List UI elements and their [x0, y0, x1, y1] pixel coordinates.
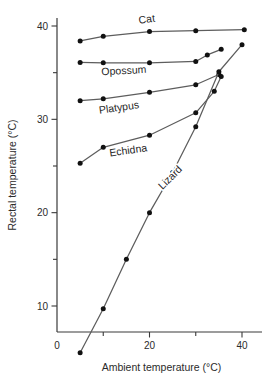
data-point-cat: [101, 34, 106, 39]
data-point-echidna: [78, 161, 83, 166]
data-point-cat: [242, 27, 247, 32]
y-axis-tick-label: 10: [37, 301, 49, 312]
x-axis-tick-label: 20: [144, 340, 156, 351]
data-point-cat: [193, 28, 198, 33]
data-point-echidna: [101, 145, 106, 150]
data-point-opossum: [78, 60, 83, 65]
series-line-echidna: [80, 76, 221, 163]
y-axis-title: Rectal temperature (°C): [6, 120, 18, 231]
data-point-lizard: [124, 257, 129, 262]
chart-figure: 1020304002040 CatCatOpossumOpossumPlatyp…: [0, 0, 269, 381]
series-line-platypus: [80, 75, 219, 101]
data-point-lizard: [216, 69, 221, 74]
data-point-platypus: [101, 96, 106, 101]
data-point-cat: [147, 29, 152, 34]
data-point-opossum: [205, 52, 210, 57]
x-axis-tick-label: 40: [236, 340, 248, 351]
series-labels: CatCatOpossumOpossumPlatypusPlatypusEchi…: [98, 12, 184, 192]
data-point-lizard: [78, 350, 83, 355]
data-point-opossum: [147, 60, 152, 65]
y-axis-tick-label: 30: [37, 114, 49, 125]
data-point-echidna: [193, 110, 198, 115]
data-point-echidna: [212, 89, 217, 94]
data-point-platypus: [78, 98, 83, 103]
data-point-lizard: [147, 210, 152, 215]
data-point-lizard: [240, 42, 245, 47]
axes: 1020304002040: [37, 18, 262, 351]
series-label-lizard: Lizard: [155, 163, 184, 192]
data-point-lizard: [193, 124, 198, 129]
data-point-echidna: [219, 74, 224, 79]
data-point-lizard: [101, 306, 106, 311]
x-axis-title: Ambient temperature (°C): [102, 361, 222, 373]
series-label-cat: Cat: [138, 12, 156, 26]
y-axis-tick-label: 20: [37, 207, 49, 218]
data-point-opossum: [193, 59, 198, 64]
data-point-platypus: [147, 90, 152, 95]
data-point-opossum: [219, 47, 224, 52]
y-axis-tick-label: 40: [37, 21, 49, 32]
temperature-line-chart: 1020304002040 CatCatOpossumOpossumPlatyp…: [0, 0, 269, 381]
data-point-echidna: [147, 133, 152, 138]
series-label-opossum: Opossum: [101, 63, 147, 77]
x-axis-tick-label: 0: [54, 340, 60, 351]
data-point-platypus: [193, 82, 198, 87]
data-point-cat: [78, 38, 83, 43]
